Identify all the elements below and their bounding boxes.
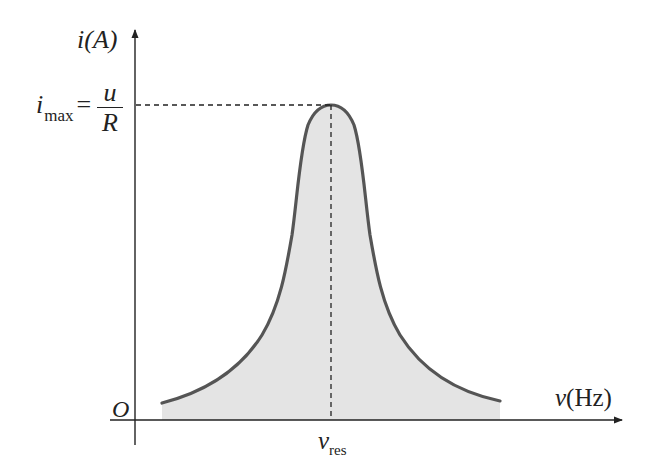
x-axis-label: ν(Hz) <box>555 385 612 410</box>
y-axis-label: i(A) <box>77 27 117 53</box>
imax-equals: = <box>77 90 92 119</box>
imax-denominator: R <box>97 110 123 136</box>
origin-label: O <box>112 397 129 421</box>
imax-numerator: u <box>97 80 123 106</box>
vres-subscript: res <box>329 442 347 458</box>
vres-symbol: ν <box>318 427 329 454</box>
imax-subscript: max <box>44 106 73 125</box>
imax-label: imax= <box>36 92 94 118</box>
vres-label: νres <box>318 428 347 453</box>
imax-symbol: i <box>36 90 43 119</box>
y-axis-unit: (A) <box>84 25 117 54</box>
x-axis-symbol: ν <box>555 384 566 411</box>
x-axis-unit: (Hz) <box>566 384 612 411</box>
imax-fraction: u R <box>97 80 123 136</box>
